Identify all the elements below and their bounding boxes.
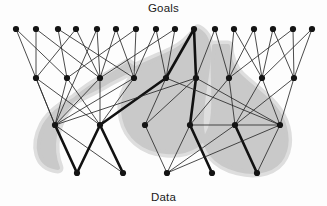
graph-node-data [164, 170, 170, 176]
edge-highlighted [77, 125, 100, 173]
graph-node-middle_lower [187, 122, 193, 128]
graph-node-middle_upper [33, 75, 39, 81]
graph-canvas [0, 0, 327, 206]
edge-highlighted [100, 125, 123, 173]
graph-node-middle_lower [277, 122, 283, 128]
graph-node-data [74, 170, 80, 176]
edge [97, 29, 100, 78]
graph-node-goals [191, 26, 197, 32]
graph-node-middle_upper [193, 75, 199, 81]
edge [294, 29, 312, 78]
graph-node-goals [13, 26, 19, 32]
graph-node-middle_lower [52, 122, 58, 128]
graph-node-middle_lower [97, 122, 103, 128]
graph-node-data [209, 170, 215, 176]
graph-node-goals [153, 26, 159, 32]
graph-node-middle_upper [97, 75, 103, 81]
graph-node-middle_upper [259, 75, 265, 81]
graph-node-goals [309, 26, 315, 32]
network-diagram: Goals Data [0, 0, 327, 206]
graph-node-goals [113, 26, 119, 32]
graph-node-goals [33, 26, 39, 32]
graph-node-goals [133, 26, 139, 32]
graph-node-goals [231, 26, 237, 32]
graph-node-middle_upper [64, 75, 70, 81]
data-label: Data [0, 191, 327, 203]
edge [262, 29, 312, 78]
edge [262, 29, 273, 78]
graph-node-goals [94, 26, 100, 32]
graph-node-middle_upper [131, 75, 137, 81]
graph-node-data [254, 170, 260, 176]
graph-node-goals [270, 26, 276, 32]
graph-node-middle_lower [232, 122, 238, 128]
graph-node-middle_upper [291, 75, 297, 81]
edge [36, 29, 100, 78]
highlight-region [39, 30, 287, 172]
graph-node-goals [55, 26, 61, 32]
edge [55, 29, 97, 125]
graph-node-data [120, 170, 126, 176]
graph-node-middle_upper [226, 75, 232, 81]
edge [293, 29, 294, 78]
graph-node-middle_lower [142, 122, 148, 128]
graph-node-goals [251, 26, 257, 32]
graph-node-goals [73, 26, 79, 32]
graph-node-middle_upper [163, 75, 169, 81]
graph-node-goals [212, 26, 218, 32]
graph-node-goals [290, 26, 296, 32]
graph-node-goals [172, 26, 178, 32]
